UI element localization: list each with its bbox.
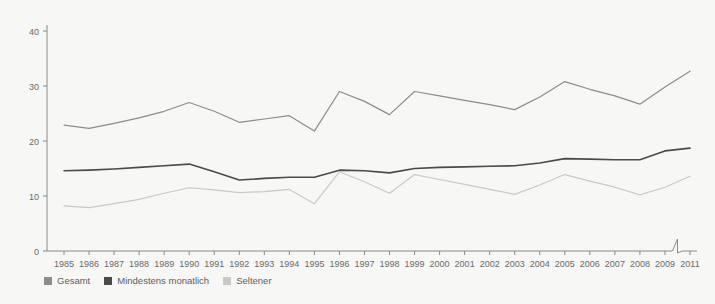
x-tick-label: 2000	[430, 259, 450, 269]
y-tick-label: 10	[29, 192, 39, 202]
y-tick-label: 40	[29, 27, 39, 37]
x-tick-label: 1991	[204, 259, 224, 269]
x-tick-label: 1987	[104, 259, 124, 269]
x-tick-label: 2005	[555, 259, 575, 269]
x-tick-label: 2007	[605, 259, 625, 269]
legend-label: Seltener	[236, 275, 271, 286]
legend-item-gesamt[interactable]: Gesamt	[44, 275, 90, 286]
x-tick-label: 2006	[580, 259, 600, 269]
legend-label: Gesamt	[57, 275, 90, 286]
y-tick-label: 30	[29, 82, 39, 92]
chart-legend: GesamtMindestens monatlichSeltener	[44, 275, 272, 286]
x-tick-label: 1995	[304, 259, 324, 269]
x-tick-label: 1989	[154, 259, 174, 269]
x-tick-label: 1990	[179, 259, 199, 269]
series-line-gesamt	[64, 71, 690, 131]
x-tick-label: 2009	[655, 259, 675, 269]
x-tick-label: 2011	[680, 259, 699, 269]
chart-canvas: 010203040 198519861987198819891990199119…	[0, 0, 715, 304]
legend-swatch-icon	[104, 277, 112, 285]
legend-label: Mindestens monatlich	[117, 275, 209, 286]
x-tick-label: 2008	[630, 259, 650, 269]
series-line-seltener	[64, 172, 690, 208]
y-axis: 010203040	[29, 25, 47, 257]
x-tick-label: 2001	[455, 259, 475, 269]
y-tick-label: 20	[29, 137, 39, 147]
x-tick-label: 1985	[54, 259, 74, 269]
x-tick-label: 2003	[505, 259, 525, 269]
x-tick-label: 1997	[354, 259, 374, 269]
x-tick-label: 1994	[279, 259, 299, 269]
x-tick-label: 2004	[530, 259, 550, 269]
legend-item-seltener[interactable]: Seltener	[223, 275, 271, 286]
legend-swatch-icon	[44, 277, 52, 285]
x-tick-label: 1986	[79, 259, 99, 269]
x-tick-label: 1988	[129, 259, 149, 269]
line-chart: 010203040 198519861987198819891990199119…	[0, 0, 715, 304]
series-lines	[64, 71, 690, 207]
x-tick-label: 1999	[405, 259, 425, 269]
x-tick-label: 1993	[254, 259, 274, 269]
y-tick-label: 0	[34, 247, 39, 257]
x-tick-label: 1998	[380, 259, 400, 269]
x-tick-label: 1996	[329, 259, 349, 269]
x-tick-label: 1992	[229, 259, 249, 269]
series-line-mindestens-monatlich	[64, 148, 690, 180]
x-axis: 1985198619871988198919901991199219931994…	[47, 239, 700, 269]
x-tick-label: 2002	[480, 259, 500, 269]
legend-swatch-icon	[223, 277, 231, 285]
legend-item-mindestens-monatlich[interactable]: Mindestens monatlich	[104, 275, 209, 286]
